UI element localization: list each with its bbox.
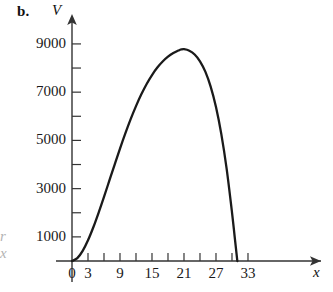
x-axis-ticks — [88, 253, 248, 261]
x-tick-label: 9 — [105, 265, 135, 282]
axes-group — [56, 14, 321, 282]
y-tick-label: 1000 — [8, 228, 66, 245]
x-tick-label: 3 — [73, 265, 103, 282]
figure-panel: r x b. V x 03915212733 10003000500070009… — [0, 0, 333, 292]
x-tick-label: 15 — [137, 265, 167, 282]
x-tick-label: 33 — [233, 265, 263, 282]
x-tick-label: 21 — [169, 265, 199, 282]
y-tick-label: 5000 — [8, 131, 66, 148]
y-tick-label: 9000 — [8, 35, 66, 52]
volume-curve — [72, 49, 237, 261]
y-tick-label: 7000 — [8, 83, 66, 100]
x-tick-label: 27 — [201, 265, 231, 282]
y-axis-ticks — [72, 44, 81, 237]
y-tick-label: 3000 — [8, 180, 66, 197]
